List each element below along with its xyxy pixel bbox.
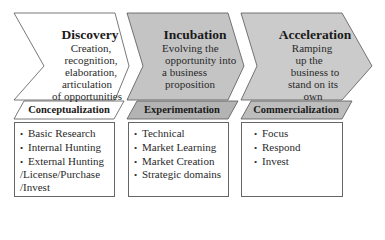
list-item: •Internal Hunting: [20, 141, 114, 155]
desc-line: Evolving the: [162, 42, 252, 54]
list-item: •Basic Research: [20, 127, 114, 141]
bullet-icon: •: [20, 156, 28, 169]
desc-line: a business: [162, 66, 252, 78]
bullet-icon: •: [134, 128, 142, 141]
desc-line: articulation: [44, 78, 130, 90]
desc-line: stand on its: [270, 78, 360, 90]
bullet-icon: •: [20, 142, 28, 155]
item-text: Basic Research: [28, 127, 96, 139]
discovery-title: Discovery: [50, 27, 130, 43]
desc-line: recognition,: [44, 54, 130, 66]
item-text: Internal Hunting: [28, 141, 101, 153]
item-text: Focus: [262, 127, 288, 139]
desc-line: proposition: [162, 78, 252, 90]
bullet-icon: •: [134, 156, 142, 169]
acceleration-title: Acceleration: [270, 27, 360, 43]
bullet-icon: •: [134, 142, 142, 155]
desc-line: of opportunities: [44, 90, 130, 102]
item-text: Respond: [262, 141, 301, 153]
desc-line: opportunity into: [162, 54, 252, 66]
list-item: •Invest: [254, 155, 342, 169]
discovery-activities-box: •Basic Research •Internal Hunting •Exter…: [14, 122, 115, 197]
desc-line: up the: [270, 54, 360, 66]
incubation-activities-box: •Technical •Market Learning •Market Crea…: [128, 122, 229, 197]
desc-line: own: [270, 90, 360, 102]
item-text: Market Creation: [142, 155, 214, 167]
item-text: Invest: [262, 155, 289, 167]
list-item: •Market Learning: [134, 141, 228, 155]
list-item: •External Hunting: [20, 155, 114, 169]
acceleration-description: Ramping up the business to stand on its …: [270, 42, 360, 102]
desc-line: Ramping: [270, 42, 360, 54]
desc-line: Creation,: [44, 42, 130, 54]
bullet-icon: •: [20, 128, 28, 141]
list-item: •Technical: [134, 127, 228, 141]
incubation-title: Incubation: [150, 27, 240, 43]
bullet-icon: •: [254, 142, 262, 155]
list-item: •Market Creation: [134, 155, 228, 169]
desc-line: business to: [270, 66, 360, 78]
item-text: External Hunting: [28, 155, 104, 167]
discovery-description: Creation, recognition, elaboration, arti…: [44, 42, 130, 102]
item-text: Market Learning: [142, 141, 216, 153]
list-item-continuation: /Invest: [20, 181, 114, 194]
bullet-icon: •: [134, 169, 142, 182]
desc-line: elaboration,: [44, 66, 130, 78]
item-text: Strategic domains: [142, 168, 221, 180]
list-item: •Focus: [254, 127, 342, 141]
list-item: •Strategic domains: [134, 168, 228, 182]
list-item-continuation: /License/Purchase: [20, 168, 114, 181]
bullet-icon: •: [254, 128, 262, 141]
conceptualization-band: Conceptualization: [19, 104, 119, 115]
acceleration-activities-box: •Focus •Respond •Invest: [241, 122, 343, 197]
list-item: •Respond: [254, 141, 342, 155]
incubation-description: Evolving the opportunity into a business…: [162, 42, 252, 90]
experimentation-band: Experimentation: [132, 104, 232, 115]
item-text: Technical: [142, 127, 185, 139]
bullet-icon: •: [254, 156, 262, 169]
commercialization-band: Commercialization: [246, 104, 346, 115]
